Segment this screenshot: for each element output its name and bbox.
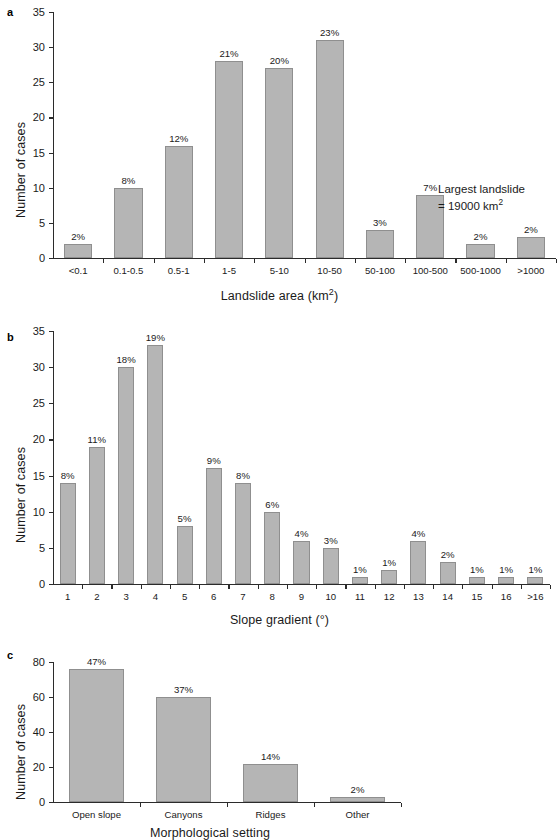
panel-a-bar [466,244,494,258]
panel-a-annotation-value: = 19000 km [438,200,498,212]
panel-b-y-tick-label: 20 [15,433,45,445]
panel-a-plot-area: 051015202530352%<0.18%0.1-0.512%0.5-121%… [53,12,556,258]
panel-b-y-axis-title: Number of cases [14,447,28,543]
panel-b-x-tick [287,585,288,589]
panel-b-x-tick [316,585,317,589]
panel-a-y-tick [49,47,53,48]
panel-b-y-tick-label: 25 [15,397,45,409]
panel-a-y-tick-label: 15 [15,147,45,159]
panel-c-x-tick [140,803,141,807]
panel-a-bar-value-label: 12% [169,133,188,144]
panel-a-y-tick-label: 35 [15,6,45,18]
panel-b-x-tick-label: 9 [299,591,304,602]
panel-c-x-tick [401,803,402,807]
panel-a-bar-value-label: 2% [524,224,538,235]
panel-b-x-tick-label: 7 [240,591,245,602]
panel-b-bar [60,483,76,584]
panel-b-bar [177,526,193,584]
panel-b-bar [440,562,456,584]
panel-b-x-tick [228,585,229,589]
panel-a-x-tick [556,259,557,263]
panel-b-bar [235,483,251,584]
panel-b-x-tick [492,585,493,589]
panel-b-bar [206,468,222,584]
panel-b-x-tick-label: 14 [442,591,453,602]
panel-a-x-tick [305,259,306,263]
panel-b-x-tick-label: 13 [413,591,424,602]
panel-b-bar-value-label: 8% [236,470,250,481]
panel-b-x-tick [170,585,171,589]
panel-b-x-tick [199,585,200,589]
panel-a-y-tick-label: 30 [15,41,45,53]
panel-a-x-tick [355,259,356,263]
panel-b-x-tick [111,585,112,589]
panel-c-y-tick [49,697,53,698]
panel-b-x-tick [521,585,522,589]
panel-b-y-tick [49,476,53,477]
panel-b-bar-value-label: 9% [207,455,221,466]
panel-b-y-tick-label: 10 [15,506,45,518]
panel-b-bar-value-label: 4% [295,528,309,539]
panel-c-bar-value-label: 14% [261,751,280,762]
panel-a-x-tick-label: 10-50 [317,265,342,276]
panel-a-y-tick [49,258,53,259]
panel-a-x-tick [204,259,205,263]
panel-b-y-tick [49,367,53,368]
panel-c-x-axis-title: Morphological setting [0,826,420,840]
panel-b-x-tick [433,585,434,589]
panel-a-y-tick-label: 20 [15,111,45,123]
panel-c-x-tick [314,803,315,807]
panel-a-x-tick-label: 100-500 [413,265,448,276]
panel-b-bar-value-label: 3% [324,535,338,546]
panel-a-annotation-superscript: 2 [498,198,503,207]
panel-b-bar-value-label: 4% [412,528,426,539]
panel-a-bar [165,146,193,258]
panel-c-bar [243,764,298,803]
panel-b-y-tick-label: 35 [15,325,45,337]
panel-a-bar-value-label: 8% [122,175,136,186]
panel-b-bar [147,345,163,584]
panel-a-annotation-line-1: Largest landslide [438,182,525,196]
panel-a-y-tick [49,82,53,83]
panel-b-x-tick [550,585,551,589]
panel-b-x-tick-label: 3 [123,591,128,602]
panel-c-plot-area: 02040608047%Open slope37%Canyons14%Ridge… [53,662,401,802]
panel-a-y-tick-label: 10 [15,182,45,194]
panel-c-x-tick-label: Canyons [165,809,203,820]
panel-a-x-tick-label: 0.1-0.5 [114,265,144,276]
panel-b-bar [527,577,543,584]
panel-a-bar-value-label: 3% [373,217,387,228]
panel-c-y-tick [49,732,53,733]
panel-c-y-tick [49,662,53,663]
panel-b-x-tick [375,585,376,589]
panel-b-x-tick [141,585,142,589]
panel-b-bar [410,541,426,584]
panel-a-x-tick-label: 1-5 [222,265,236,276]
panel-b: b Number of cases 051015202530358%111%21… [0,315,559,645]
panel-b-bar [118,367,134,584]
figure-landslide-statistics: a Number of cases 051015202530352%<0.18%… [0,0,559,840]
panel-a-y-axis-title: Number of cases [14,122,28,218]
panel-c-x-tick [227,803,228,807]
panel-b-bar-value-label: 5% [178,513,192,524]
panel-a-bar [265,68,293,258]
panel-a: a Number of cases 051015202530352%<0.18%… [0,0,559,310]
panel-b-x-tick-label: 2 [94,591,99,602]
panel-b-x-tick-label: 4 [153,591,158,602]
panel-c-y-tick-label: 80 [15,656,45,668]
panel-a-x-tick [506,259,507,263]
panel-b-bar-value-label: 8% [61,470,75,481]
panel-b-bar [381,570,397,584]
panel-a-y-tick-label: 5 [15,217,45,229]
panel-c-bar [156,697,211,802]
panel-a-bar-value-label: 2% [71,231,85,242]
panel-b-x-tick [82,585,83,589]
panel-b-bar-value-label: 1% [382,557,396,568]
panel-b-x-tick-label: 11 [355,591,365,602]
panel-b-bar [323,548,339,584]
panel-b-bar-value-label: 1% [499,564,513,575]
panel-b-y-tick [49,331,53,332]
panel-c-y-tick-label: 60 [15,691,45,703]
panel-b-y-tick-label: 5 [15,542,45,554]
panel-a-bar [215,61,243,258]
